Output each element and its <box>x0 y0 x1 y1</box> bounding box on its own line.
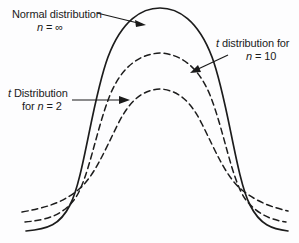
annotation-normal-line2: n = ∞ <box>12 21 102 34</box>
annotation-t2-lead: for <box>22 100 38 112</box>
annotation-t10-line2: n = 10 <box>216 50 289 63</box>
annotation-normal-value: ∞ <box>55 21 63 33</box>
annotation-t-n10: t distribution for n = 10 <box>216 37 289 63</box>
annotation-normal-equals: = <box>43 21 55 33</box>
annotation-t10-equals: = <box>252 50 264 62</box>
annotation-t-n2: t Distribution for n = 2 <box>8 87 68 113</box>
annotation-normal-line1: Normal distribution <box>12 8 102 20</box>
annotation-t2-line1-rest: Distribution <box>11 87 68 99</box>
annotation-t10-value: 10 <box>264 50 276 62</box>
arrow-t-n2 <box>72 96 130 104</box>
annotation-t2-equals: = <box>44 100 56 112</box>
annotation-t2-line2: for n = 2 <box>8 100 68 113</box>
annotation-t2-value: 2 <box>56 100 62 112</box>
annotation-t10-line1-rest: distribution for <box>219 37 289 49</box>
annotation-normal-distribution: Normal distribution n = ∞ <box>12 8 102 34</box>
t-distribution-figure: Normal distribution n = ∞ t distribution… <box>0 0 299 243</box>
